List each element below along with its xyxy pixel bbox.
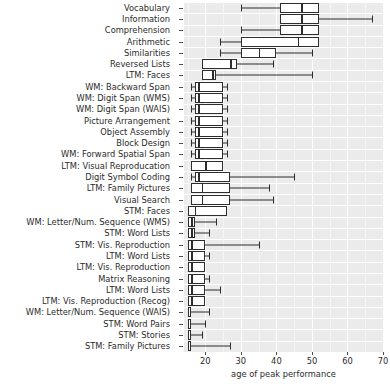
whisker-upper xyxy=(191,312,209,313)
whisker-cap-upper xyxy=(372,15,373,22)
boxplot-row xyxy=(184,103,383,115)
box-iqr xyxy=(191,183,230,193)
whisker-lower xyxy=(220,52,241,53)
median-line xyxy=(191,217,193,227)
y-axis-tick-mark xyxy=(179,222,183,223)
y-axis-tick-mark xyxy=(179,109,183,110)
whisker-cap-lower xyxy=(241,27,242,34)
boxplot-row xyxy=(184,295,383,307)
boxplot-row xyxy=(184,194,383,206)
y-axis-tick-mark xyxy=(179,233,183,234)
whisker-upper xyxy=(216,75,312,76)
y-axis-label-column: VocabularyInformationComprehensionArithm… xyxy=(0,0,178,352)
whisker-cap-lower xyxy=(220,49,221,56)
x-axis-tick-mark xyxy=(347,352,348,355)
y-axis-tick-label: LTM: Visual Reproducation xyxy=(61,161,170,170)
y-axis-tick-label: WM: Letter/Num. Sequence (WAIS) xyxy=(26,308,170,317)
median-line xyxy=(198,104,200,114)
x-axis-tick-label: 20 xyxy=(200,356,211,366)
whisker-cap-upper xyxy=(205,320,206,327)
whisker-cap-upper xyxy=(209,275,210,282)
whisker-cap-upper xyxy=(227,106,228,113)
y-axis-tick-label: LTM: Faces xyxy=(126,71,170,80)
median-line xyxy=(188,319,190,329)
whisker-cap-upper xyxy=(269,185,270,192)
y-axis-tick-label: Arithmetic xyxy=(127,37,170,46)
boxplot-figure: VocabularyInformationComprehensionArithm… xyxy=(0,0,390,391)
median-line xyxy=(191,285,193,295)
x-axis-tick-mark xyxy=(276,352,277,355)
y-axis-tick-mark xyxy=(179,267,183,268)
boxplot-row xyxy=(184,81,383,93)
y-axis-tick-mark xyxy=(179,324,183,325)
y-axis-tick-mark xyxy=(179,346,183,347)
whisker-upper xyxy=(195,222,216,223)
boxplot-row xyxy=(184,171,383,183)
whisker-upper xyxy=(205,289,219,290)
y-axis-tick-mark xyxy=(179,87,183,88)
boxplot-row xyxy=(184,69,383,81)
whisker-cap-lower xyxy=(241,4,242,11)
whisker-upper xyxy=(230,199,273,200)
whisker-cap-upper xyxy=(209,253,210,260)
median-line xyxy=(230,59,232,69)
whisker-cap-lower xyxy=(191,117,192,124)
box-iqr xyxy=(280,25,319,35)
box-iqr xyxy=(191,161,223,171)
y-axis-tick-mark xyxy=(179,143,183,144)
y-axis-tick-mark xyxy=(179,290,183,291)
median-line xyxy=(212,70,214,80)
median-line xyxy=(198,93,200,103)
whisker-cap-upper xyxy=(227,94,228,101)
y-axis-tick-mark xyxy=(179,154,183,155)
y-axis-tick-mark xyxy=(179,211,183,212)
y-axis-tick-mark xyxy=(179,301,183,302)
boxplot-row xyxy=(184,92,383,104)
y-axis-tick-label: Similarities xyxy=(124,48,170,57)
y-axis-tick-mark xyxy=(179,53,183,54)
boxplot-row xyxy=(184,160,383,172)
x-axis-tick-mark xyxy=(312,352,313,355)
whisker-upper xyxy=(230,188,269,189)
median-line xyxy=(198,172,200,182)
median-line xyxy=(259,48,261,58)
boxplot-row xyxy=(184,13,383,25)
median-line xyxy=(191,296,193,306)
y-axis-tick-label: Reversed Lists xyxy=(110,60,170,69)
boxplot-row xyxy=(184,261,383,273)
median-line xyxy=(198,138,200,148)
whisker-upper xyxy=(319,18,372,19)
y-axis-tick-mark xyxy=(179,245,183,246)
boxplot-row xyxy=(184,47,383,59)
y-axis-tick-mark xyxy=(179,256,183,257)
median-line xyxy=(301,25,303,35)
y-axis-tick-label: LTM: Vis. Reproduction (Recog) xyxy=(42,297,170,306)
whisker-cap-upper xyxy=(259,241,260,248)
whisker-cap-upper xyxy=(227,140,228,147)
median-line xyxy=(205,161,207,171)
whisker-cap-upper xyxy=(227,128,228,135)
median-line xyxy=(202,195,204,205)
y-axis-tick-label: LTM: Family Pictures xyxy=(87,184,170,193)
y-axis-tick-label: Visual Search xyxy=(114,195,170,204)
y-axis-tick-label: LTM: Word Lists xyxy=(106,252,170,261)
y-axis-tick-label: STM: Vis. Reproduction xyxy=(75,240,170,249)
median-line xyxy=(191,274,193,284)
boxplot-row xyxy=(184,216,383,228)
plot-panel xyxy=(184,2,383,352)
y-axis-tick-mark xyxy=(179,64,183,65)
box-iqr xyxy=(280,3,319,13)
y-axis-tick-mark xyxy=(179,335,183,336)
box-iqr xyxy=(195,172,231,182)
median-line xyxy=(198,116,200,126)
x-axis-tick-label: 40 xyxy=(271,356,282,366)
whisker-cap-lower xyxy=(191,106,192,113)
y-axis-tick-label: STM: Faces xyxy=(124,206,170,215)
y-axis-tick-label: Block Design xyxy=(116,139,170,148)
y-axis-tick-mark xyxy=(179,75,183,76)
y-axis-tick-label: WM: Backward Span xyxy=(85,82,170,91)
y-axis-tick-mark xyxy=(179,42,183,43)
whisker-lower xyxy=(241,7,280,8)
whisker-cap-lower xyxy=(191,128,192,135)
y-axis-tick-mark xyxy=(179,177,183,178)
